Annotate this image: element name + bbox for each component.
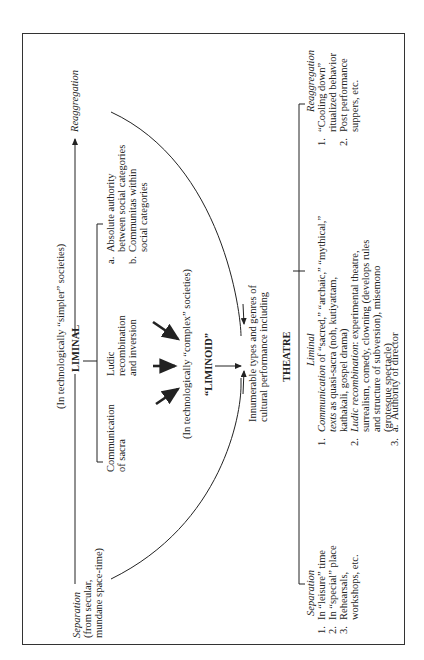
theatre-separation-item-1: 1.In “leisure” time — [316, 550, 327, 634]
sub-item-b: b.Communitas within — [127, 169, 138, 264]
reaggregation-title: Reaggregation — [69, 70, 80, 132]
figure-frame: (In technologically “simpler” societies)… — [22, 33, 405, 645]
theatre-liminal-item-1: 1.Communication of “sacred,” “archaic,” … — [316, 216, 327, 446]
theatre-liminal-item-1-line-2: texts as quasi-sacra (noh, kutiyattam, — [327, 277, 338, 432]
liminal-title: LIMINAL — [70, 325, 81, 372]
theatre-title: THEATRE — [281, 331, 292, 382]
branch-ludic-line-1: Ludic — [105, 352, 116, 377]
simpler-societies-label: (In technologically “simpler” societies) — [55, 244, 66, 409]
liminal-liminoid-diagram: (In technologically “simpler” societies)… — [22, 33, 405, 645]
theatre-reaggregation-item-2: 2.Post performance — [338, 58, 349, 146]
theatre-liminal-item-1-line-3: kathakali, gospel drama) — [338, 328, 349, 432]
separation-line-2: mundane space-time) — [93, 548, 104, 638]
complex-societies-label: (In technologically “complex” societies) — [181, 269, 192, 439]
sub-item-a-line-2: between social categories — [116, 145, 127, 252]
sub-item-a: a.Absolute authority — [105, 174, 116, 264]
theatre-separation-item-3: 3.Rehearsals, — [338, 572, 349, 634]
theatre-reaggregation-item-1-line-2: ritualized behavior — [327, 53, 338, 132]
theatre-liminal-item-3a: 3.a.Authority of director — [389, 333, 400, 446]
liminoid-title: “LIMINOID” — [203, 333, 214, 396]
branch-communication-line-2: of sacra — [116, 439, 127, 472]
genres-line-2: cultural performance including — [258, 292, 269, 422]
theatre-liminal-item-2: 2.Ludic recombination: experimental thea… — [349, 250, 360, 446]
branch-ludic-line-2: recombination — [116, 315, 127, 376]
genres-line-1: Innumerable types and genres of — [247, 285, 258, 422]
separation-line-1: (from secular, — [82, 580, 93, 638]
theatre-liminal-item-2-line-3: and structure of subversion), misemono — [371, 265, 382, 432]
theatre-separation-item-2: 2.In “special” place — [327, 545, 338, 634]
theatre-separation-item-3-line-2: workshops, etc. — [349, 554, 360, 620]
sub-item-b-line-2: social categories — [138, 182, 149, 252]
theatre-liminal-item-2-line-2: surrealism, comedy, clowning (develops r… — [360, 240, 371, 432]
branch-ludic-line-3: and inversion — [127, 319, 138, 376]
theatre-reaggregation-item-2-line-2: suppers, etc. — [349, 80, 360, 132]
theatre-separation-title: Separation — [305, 570, 316, 616]
theatre-reaggregation-title: Reaggregation — [305, 50, 316, 112]
theatre-reaggregation-item-1: 1.“Cooling down” — [316, 63, 327, 146]
branch-communication-line-1: Communication — [105, 404, 116, 472]
separation-title: Separation — [71, 592, 82, 638]
theatre-liminal-title: Liminal — [305, 333, 316, 366]
